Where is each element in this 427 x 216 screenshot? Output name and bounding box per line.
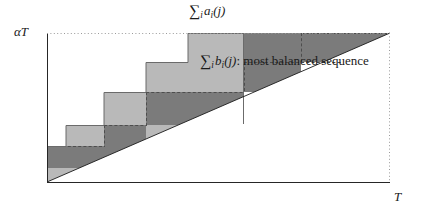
lower-curve-caption: : most balanced sequence [236,53,368,68]
fn-b-arg: (j) [224,53,236,68]
y-axis-label-t: T [21,24,28,39]
lower-step-4 [146,92,188,125]
staircase-plot [0,0,427,216]
x-axis-label-text: T [394,189,401,204]
y-axis-label: αT [14,25,28,38]
sigma-b-subscript: i [211,60,214,70]
lower-step-1 [47,146,66,168]
figure-container: αT T ∑i ai(j) ∑i bi(j): most balanced se… [0,0,427,216]
sigma-icon-a: ∑ [189,2,200,19]
upper-curve-label: ∑i ai(j) [189,3,225,20]
sigma-a-subscript: i [200,10,203,20]
y-axis-label-text: α [14,24,21,39]
x-axis-label: T [394,190,401,203]
sigma-icon-b: ∑ [200,52,211,69]
fn-a-arg: (j) [213,3,225,18]
lower-curve-label: ∑i bi(j): most balanced sequence [200,53,369,70]
